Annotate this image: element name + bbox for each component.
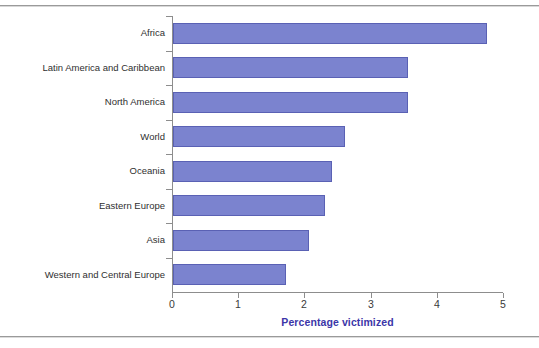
- category-label: Latin America and Caribbean: [0, 62, 165, 73]
- y-axis-tick: [166, 85, 172, 86]
- y-axis-tick: [166, 154, 172, 155]
- category-label: Oceania: [0, 165, 165, 176]
- x-axis-tick-label: 5: [488, 298, 518, 310]
- category-label: Africa: [0, 27, 165, 38]
- x-axis-title: Percentage victimized: [172, 316, 503, 328]
- x-axis-tick-label: 3: [356, 298, 386, 310]
- bar: [173, 161, 332, 182]
- bar: [173, 195, 325, 216]
- bar-chart-plot-area: 012345 AfricaLatin America and Caribbean…: [0, 0, 539, 348]
- x-axis-tick-label: 4: [422, 298, 452, 310]
- category-label: World: [0, 131, 165, 142]
- bar: [173, 126, 345, 147]
- y-axis-tick: [166, 258, 172, 259]
- x-axis-line: [172, 292, 503, 293]
- bar: [173, 57, 408, 78]
- x-axis-tick-label: 2: [289, 298, 319, 310]
- x-axis-tick-label: 0: [157, 298, 187, 310]
- category-label: Eastern Europe: [0, 200, 165, 211]
- bar: [173, 23, 487, 44]
- y-axis-tick: [166, 223, 172, 224]
- bar: [173, 264, 286, 285]
- category-label: Asia: [0, 234, 165, 245]
- bar: [173, 230, 309, 251]
- bar: [173, 92, 408, 113]
- y-axis-tick: [166, 16, 172, 17]
- category-label: North America: [0, 96, 165, 107]
- y-axis-tick: [166, 189, 172, 190]
- x-axis-tick-label: 1: [223, 298, 253, 310]
- y-axis-tick: [166, 51, 172, 52]
- chart-figure: 012345 AfricaLatin America and Caribbean…: [0, 0, 539, 348]
- y-axis-tick: [166, 120, 172, 121]
- category-label: Western and Central Europe: [0, 269, 165, 280]
